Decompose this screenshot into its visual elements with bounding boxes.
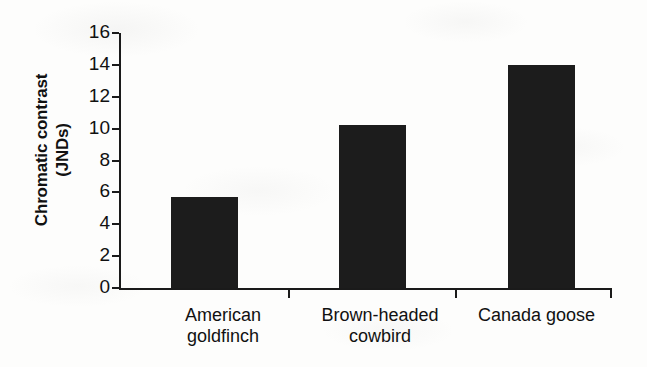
y-tick-mark xyxy=(112,255,119,257)
bar-canada-goose xyxy=(508,65,575,288)
bar-chart-figure: Chromatic contrast (JNDs) 0 2 4 6 8 xyxy=(0,0,647,367)
y-axis-line xyxy=(119,33,121,288)
y-tick-mark xyxy=(112,191,119,193)
y-tick-label: 16 xyxy=(89,21,110,43)
y-tick-mark xyxy=(112,64,119,66)
y-tick-mark xyxy=(112,128,119,130)
y-tick-label: 4 xyxy=(99,212,110,234)
x-category-label-american-goldfinch: American goldfinch xyxy=(138,305,308,347)
category-label-line1: American xyxy=(138,305,308,326)
y-tick-mark xyxy=(112,96,119,98)
y-tick-label: 12 xyxy=(89,85,110,107)
category-label-line1: Canada goose xyxy=(459,305,614,326)
y-tick-mark xyxy=(112,32,119,34)
x-axis-line xyxy=(119,288,612,290)
y-tick-label: 6 xyxy=(99,180,110,202)
y-axis-title-line2: (JNDs) xyxy=(52,74,73,226)
y-axis-title: Chromatic contrast (JNDs) xyxy=(0,0,104,300)
bar-brown-headed-cowbird xyxy=(339,125,406,288)
y-tick-label: 2 xyxy=(99,244,110,266)
category-label-line2: goldfinch xyxy=(138,326,308,347)
category-label-line1: Brown-headed xyxy=(295,305,465,326)
y-tick-mark xyxy=(112,287,119,289)
y-tick-label: 8 xyxy=(99,149,110,171)
y-tick-label: 10 xyxy=(89,117,110,139)
y-axis-title-line1: Chromatic contrast xyxy=(31,74,52,226)
x-tick-separator-2 xyxy=(455,290,457,298)
x-category-label-brown-headed-cowbird: Brown-headed cowbird xyxy=(295,305,465,347)
x-tick-separator-1 xyxy=(288,290,290,298)
category-label-line2: cowbird xyxy=(295,326,465,347)
plot-area: 0 2 4 6 8 10 12 14 xyxy=(119,33,612,288)
y-tick-label: 0 xyxy=(99,276,110,298)
x-tick-separator-end xyxy=(610,290,612,298)
y-tick-label: 14 xyxy=(89,53,110,75)
bar-american-goldfinch xyxy=(171,197,238,288)
x-category-label-canada-goose: Canada goose xyxy=(459,305,614,326)
y-tick-mark xyxy=(112,223,119,225)
y-tick-mark xyxy=(112,160,119,162)
